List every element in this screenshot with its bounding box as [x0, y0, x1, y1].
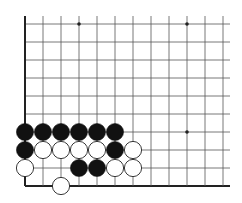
- black-stone[interactable]: [106, 141, 123, 158]
- white-stone[interactable]: [124, 159, 141, 176]
- white-stone[interactable]: [16, 159, 33, 176]
- white-stone[interactable]: [52, 141, 69, 158]
- white-stone[interactable]: [124, 141, 141, 158]
- black-stone[interactable]: [16, 141, 33, 158]
- black-stone[interactable]: [88, 159, 105, 176]
- star-point: [77, 22, 81, 26]
- black-stone[interactable]: [70, 159, 87, 176]
- star-point: [185, 22, 189, 26]
- black-stone[interactable]: [106, 123, 123, 140]
- black-stone[interactable]: [34, 123, 51, 140]
- white-stone[interactable]: [52, 177, 69, 194]
- white-stone[interactable]: [106, 159, 123, 176]
- board-grid: [25, 16, 230, 186]
- star-point: [185, 130, 189, 134]
- white-stone[interactable]: [88, 141, 105, 158]
- black-stone[interactable]: [88, 123, 105, 140]
- black-stone[interactable]: [52, 123, 69, 140]
- white-stone[interactable]: [70, 141, 87, 158]
- black-stone[interactable]: [16, 123, 33, 140]
- go-board[interactable]: [0, 0, 242, 203]
- white-stone[interactable]: [34, 141, 51, 158]
- black-stone[interactable]: [70, 123, 87, 140]
